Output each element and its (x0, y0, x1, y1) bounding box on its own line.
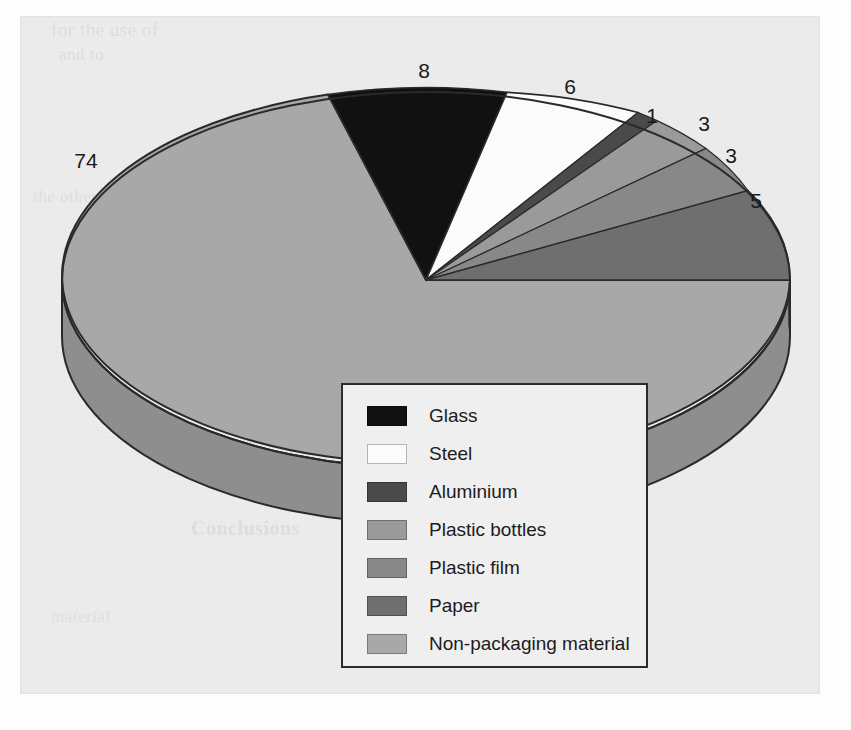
legend-label-non-packaging: Non-packaging material (429, 633, 630, 655)
label-plastic-film: 3 (725, 144, 737, 167)
chart-legend: Glass Steel Aluminium Plastic bottles Pl… (341, 383, 648, 668)
legend-swatch-plastic-bottles (367, 520, 407, 540)
legend-item-paper[interactable]: Paper (367, 587, 640, 625)
chart-page: for the use of and to the other side Con… (0, 0, 851, 730)
legend-label-glass: Glass (429, 405, 478, 427)
legend-swatch-aluminium (367, 482, 407, 502)
legend-item-steel[interactable]: Steel (367, 435, 640, 473)
label-glass: 8 (418, 59, 430, 82)
legend-swatch-plastic-film (367, 558, 407, 578)
legend-swatch-non-packaging (367, 634, 407, 654)
legend-swatch-glass (367, 406, 407, 426)
label-paper: 5 (750, 189, 762, 212)
legend-item-list: Glass Steel Aluminium Plastic bottles Pl… (367, 397, 640, 663)
label-aluminium: 1 (646, 104, 658, 127)
legend-label-paper: Paper (429, 595, 480, 617)
legend-label-steel: Steel (429, 443, 472, 465)
legend-swatch-steel (367, 444, 407, 464)
label-steel: 6 (564, 75, 576, 98)
legend-swatch-paper (367, 596, 407, 616)
legend-item-glass[interactable]: Glass (367, 397, 640, 435)
legend-item-plastic-film[interactable]: Plastic film (367, 549, 640, 587)
legend-item-plastic-bottles[interactable]: Plastic bottles (367, 511, 640, 549)
legend-item-aluminium[interactable]: Aluminium (367, 473, 640, 511)
legend-label-plastic-film: Plastic film (429, 557, 520, 579)
label-plastic-bottles: 3 (698, 112, 710, 135)
legend-label-aluminium: Aluminium (429, 481, 518, 503)
label-non-packaging: 74 (74, 149, 98, 172)
legend-label-plastic-bottles: Plastic bottles (429, 519, 546, 541)
legend-item-non-packaging[interactable]: Non-packaging material (367, 625, 640, 663)
